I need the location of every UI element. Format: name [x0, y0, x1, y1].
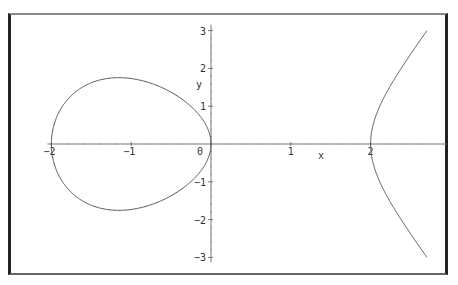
y-tick-label: −1 [194, 177, 206, 188]
y-tick-label: 3 [200, 26, 206, 37]
x-tick-label: 1 [288, 146, 294, 157]
y-tick-label: 1 [200, 101, 206, 112]
x-axis-label: x [318, 150, 324, 161]
y-axis-label: y [196, 79, 202, 90]
axes: −2−1012−3−2−1123 [43, 25, 446, 264]
y-tick-label: −2 [194, 215, 206, 226]
y-tick-label: 2 [200, 63, 206, 74]
x-tick-label: −1 [123, 146, 135, 157]
x-tick-label: −2 [43, 146, 55, 157]
y-tick-label: −3 [194, 252, 206, 263]
plot-area: −2−1012−3−2−1123 x y [0, 0, 458, 285]
x-tick-label: 0 [197, 146, 203, 157]
